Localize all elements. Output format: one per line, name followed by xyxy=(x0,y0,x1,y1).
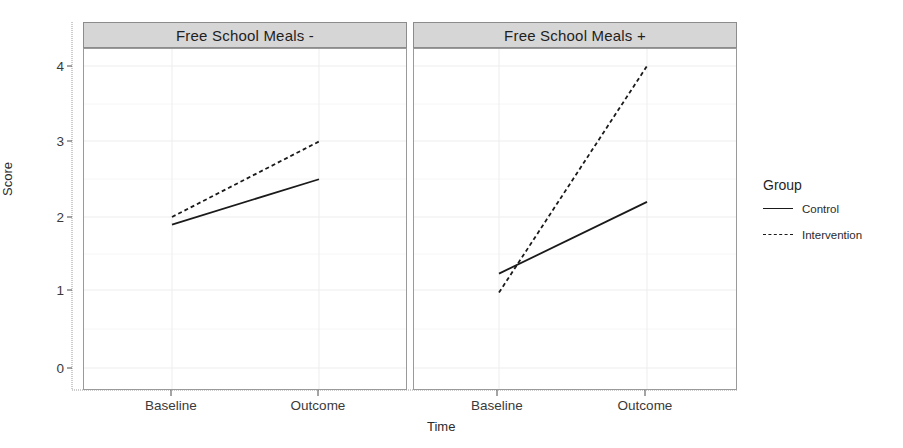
legend-key-solid-line-icon xyxy=(763,203,793,215)
facet-strip-label: Free School Meals - xyxy=(176,27,314,44)
x-tick-label-outcome-panel-1: Outcome xyxy=(605,398,685,413)
facet-panel-plot-area xyxy=(414,49,736,389)
legend-label-control: Control xyxy=(802,203,839,215)
y-tick-label-0: 0 xyxy=(40,361,64,376)
facet-panel-free-school-meals-minus xyxy=(83,48,407,390)
legend-label-intervention: Intervention xyxy=(802,229,862,241)
x-axis-title: Time xyxy=(427,419,455,434)
line-control xyxy=(499,202,647,274)
facet-panel-free-school-meals-plus xyxy=(413,48,737,390)
legend-item-control[interactable]: Control xyxy=(763,203,839,215)
facet-strip-free-school-meals-plus: Free School Meals + xyxy=(413,22,737,48)
legend-title: Group xyxy=(763,177,802,193)
facet-panel-plot-area xyxy=(84,49,406,389)
y-axis-title: Score xyxy=(0,162,15,196)
y-tick-label-4: 4 xyxy=(40,59,64,74)
y-tick-label-2: 2 xyxy=(40,210,64,225)
x-tick-label-baseline-panel-0: Baseline xyxy=(131,398,211,413)
x-tick-label-outcome-panel-0: Outcome xyxy=(278,398,358,413)
facet-line-chart: Score 4 3 2 1 0 Free School Meals - xyxy=(0,0,903,448)
y-tick-label-3: 3 xyxy=(40,134,64,149)
legend-item-intervention[interactable]: Intervention xyxy=(763,229,862,241)
grid-lines xyxy=(414,49,736,389)
facet-strip-free-school-meals-minus: Free School Meals - xyxy=(83,22,407,48)
series-lines xyxy=(172,142,319,225)
facet-strip-label: Free School Meals + xyxy=(504,27,646,44)
line-control xyxy=(172,179,319,224)
y-tick-label-1: 1 xyxy=(40,283,64,298)
grid-lines xyxy=(84,49,406,389)
x-tick-label-baseline-panel-1: Baseline xyxy=(457,398,537,413)
legend-key-dashed-line-icon xyxy=(763,229,793,241)
